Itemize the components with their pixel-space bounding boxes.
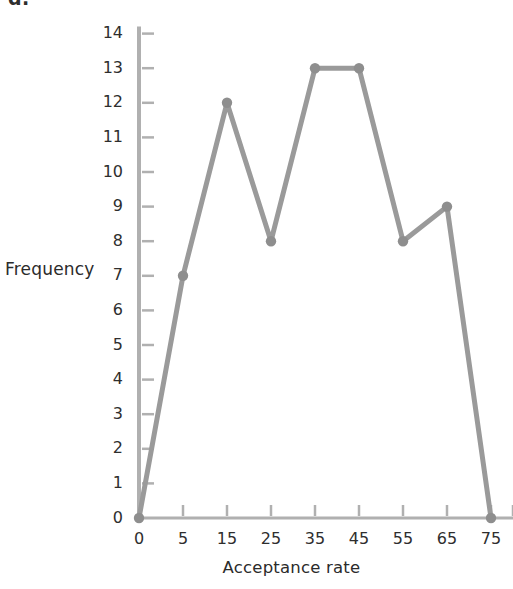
y-tick-label: 12 [103,92,123,111]
x-tick-label: 65 [437,529,457,548]
data-point-marker [442,201,452,211]
x-tick-label: 35 [305,529,325,548]
y-tick-label: 5 [113,335,123,354]
data-series-line [139,68,491,518]
y-tick-label: 2 [113,438,123,457]
x-tick-label: 15 [217,529,237,548]
y-tick-label: 6 [113,300,123,319]
y-tick-label: 10 [103,162,123,181]
x-tick-label: 45 [349,529,369,548]
line-chart-plot: 01234567891011121314 0515253545556575 [0,0,513,589]
y-tick-label: 7 [113,265,123,284]
x-axis-tick-marks [183,505,513,516]
x-tick-label: 55 [393,529,413,548]
figure-root: d. Frequency Acceptance rate 01234567891… [0,0,513,589]
y-axis-tick-labels: 01234567891011121314 [103,23,123,526]
data-point-marker [134,513,144,523]
x-tick-label: 0 [134,529,144,548]
y-tick-label: 8 [113,231,123,250]
data-point-marker [486,513,496,523]
x-tick-label: 25 [261,529,281,548]
data-point-markers [134,63,496,523]
x-axis-tick-labels: 0515253545556575 [134,529,501,548]
y-tick-label: 4 [113,369,123,388]
y-tick-label: 9 [113,196,123,215]
data-point-marker [310,63,320,73]
y-tick-label: 13 [103,58,123,77]
x-tick-label: 75 [481,529,501,548]
data-point-marker [266,236,276,246]
data-point-marker [398,236,408,246]
data-point-marker [354,63,364,73]
data-point-marker [178,271,188,281]
data-point-marker [222,98,232,108]
y-tick-label: 1 [113,473,123,492]
y-tick-label: 11 [103,127,123,146]
y-axis-tick-marks [142,34,154,484]
y-tick-label: 14 [103,23,123,42]
y-tick-label: 3 [113,404,123,423]
y-tick-label: 0 [113,508,123,527]
x-tick-label: 5 [178,529,188,548]
